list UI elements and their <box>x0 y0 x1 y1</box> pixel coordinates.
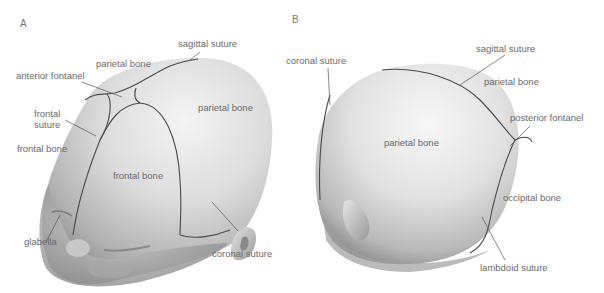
label-a-frontal-bone-center: frontal bone <box>113 170 163 181</box>
label-b-parietal-bone-right: parietal bone <box>484 76 539 87</box>
label-a-coronal-suture: coronal suture <box>212 248 272 259</box>
skull-b <box>315 55 532 272</box>
label-a-parietal-bone-top: parietal bone <box>96 58 151 69</box>
label-b-occipital-bone: occipital bone <box>503 192 561 203</box>
label-a-frontal-suture-line1: frontal <box>34 108 60 119</box>
label-b-posterior-fontanel: posterior fontanel <box>510 112 583 123</box>
label-b-parietal-bone-center: parietal bone <box>384 137 439 148</box>
label-a-frontal-suture: frontal suture <box>34 108 60 130</box>
label-a-glabella: glabella <box>24 236 57 247</box>
label-b-lambdoid-suture: lambdoid suture <box>480 262 548 273</box>
label-a-frontal-bone-left: frontal bone <box>17 143 67 154</box>
label-b-sagittal-suture: sagittal suture <box>476 43 535 54</box>
label-b-coronal-suture: coronal suture <box>286 55 346 66</box>
label-a-anterior-fontanel: anterior fontanel <box>16 70 85 81</box>
panel-label-a: A <box>20 18 27 29</box>
panel-label-b: B <box>292 14 299 25</box>
label-a-frontal-suture-line2: suture <box>34 119 60 130</box>
label-a-parietal-bone-right: parietal bone <box>198 102 253 113</box>
label-a-sagittal-suture: sagittal suture <box>178 38 237 49</box>
